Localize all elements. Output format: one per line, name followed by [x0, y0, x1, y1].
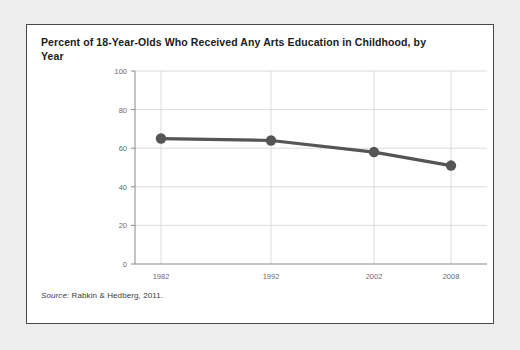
axes: [135, 71, 487, 264]
figure-frame: Percent of 18-Year-Olds Who Received Any…: [26, 24, 494, 324]
y-axis-tick-labels: 100 80 60 40 20 0: [114, 67, 127, 269]
chart-plot-area: 100 80 60 40 20 0 1982 1992 2002 2008: [27, 25, 495, 325]
data-series: [156, 133, 456, 170]
y-tick-label: 20: [119, 221, 127, 230]
x-tick-label: 1982: [153, 272, 170, 281]
y-tick-label: 80: [119, 106, 127, 115]
y-tick-label: 60: [119, 144, 127, 153]
y-tick-label: 40: [119, 183, 127, 192]
series-line: [161, 139, 451, 166]
x-tick-label: 2002: [366, 272, 383, 281]
data-point-marker: [156, 133, 166, 143]
data-point-marker: [266, 135, 276, 145]
y-gridlines: [135, 71, 487, 225]
y-tick-label: 100: [114, 67, 127, 76]
x-gridlines: [161, 71, 451, 264]
y-axis-ticks: [131, 71, 135, 264]
x-tick-label: 2008: [443, 272, 460, 281]
data-point-marker: [369, 147, 379, 157]
x-tick-label: 1992: [263, 272, 280, 281]
x-axis-tick-labels: 1982 1992 2002 2008: [153, 272, 460, 281]
source-note: Source: Rabkin & Hedberg, 2011.: [41, 291, 163, 300]
source-label: Source:: [41, 291, 69, 300]
y-tick-label: 0: [123, 260, 127, 269]
source-citation: Rabkin & Hedberg, 2011.: [69, 291, 163, 300]
data-point-marker: [446, 160, 456, 170]
line-chart-svg: 100 80 60 40 20 0 1982 1992 2002 2008: [27, 25, 495, 325]
